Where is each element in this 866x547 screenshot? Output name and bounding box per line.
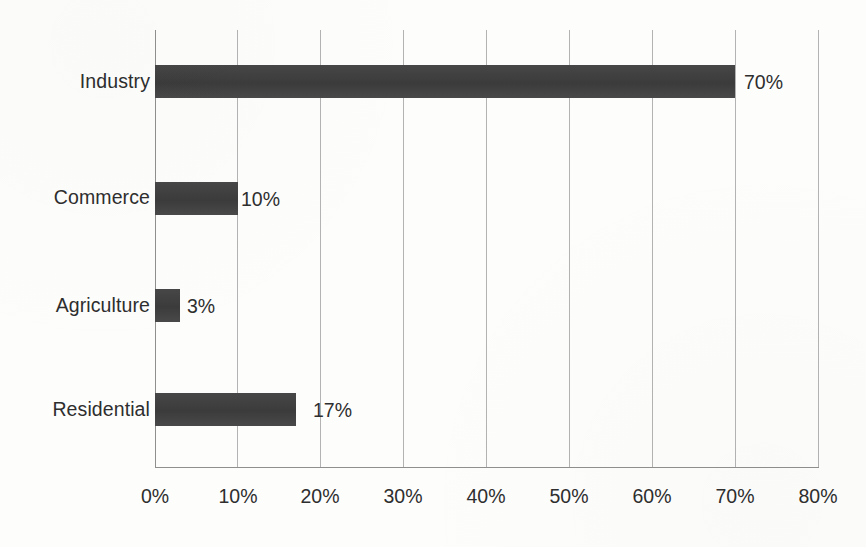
x-axis-line [155,467,819,468]
xtick-label-70: 70% [695,487,775,507]
category-label-agriculture: Agriculture [0,296,150,316]
bar-industry [155,65,735,98]
gridline-80 [818,30,819,467]
gridline-70 [735,30,736,467]
bar-residential [155,393,296,426]
category-label-industry: Industry [0,72,150,92]
bar-commerce [155,182,238,215]
category-label-residential: Residential [0,400,150,420]
xtick-label-0: 0% [115,487,195,507]
category-label-commerce: Commerce [0,188,150,208]
xtick-label-30: 30% [363,487,443,507]
xtick-label-50: 50% [529,487,609,507]
data-label-agriculture: 3% [187,297,215,317]
xtick-label-10: 10% [198,487,278,507]
xtick-label-40: 40% [446,487,526,507]
data-label-residential: 17% [313,401,352,421]
xtick-label-20: 20% [280,487,360,507]
data-label-commerce: 10% [241,190,280,210]
bar-agriculture [155,289,180,322]
xtick-label-60: 60% [612,487,692,507]
plot-area: 70% 10% 3% 17% [155,30,818,467]
xtick-label-80: 80% [778,487,858,507]
data-label-industry: 70% [744,73,783,93]
bar-chart: Industry Commerce Agriculture Residentia… [0,0,866,547]
